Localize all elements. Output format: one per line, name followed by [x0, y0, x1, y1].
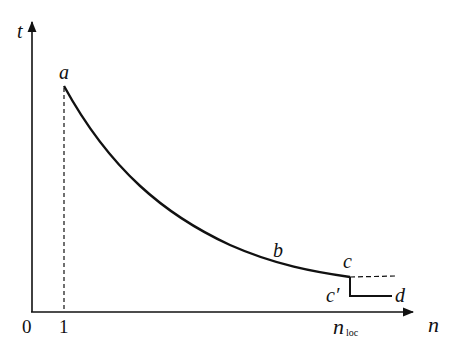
point-a-label: a — [59, 61, 69, 83]
y-axis-label: t — [17, 20, 23, 42]
step-c-to-d — [350, 277, 392, 296]
diagram-canvas: t n 0 1 a b c c′ d nloc — [0, 0, 453, 350]
point-c-prime-label: c′ — [326, 284, 340, 306]
point-d-label: d — [395, 284, 406, 306]
dashed-continuation — [350, 276, 396, 277]
x-tick-1-label: 1 — [59, 316, 69, 337]
n-loc-label: nloc — [333, 314, 359, 339]
x-axis-label: n — [428, 312, 439, 337]
curve-a-to-c — [64, 86, 350, 277]
origin-label: 0 — [22, 316, 32, 337]
point-c-label: c — [343, 250, 352, 272]
n-loc-main: n — [333, 314, 344, 339]
n-loc-subscript: loc — [346, 327, 359, 338]
point-b-label: b — [273, 239, 283, 261]
